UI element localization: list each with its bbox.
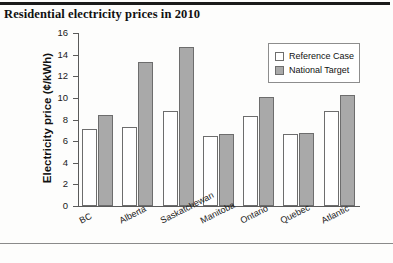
chart-legend: Reference Case National Target [268, 43, 360, 83]
bar-group [118, 33, 158, 206]
bar-group [78, 33, 118, 206]
x-category-label: BC [78, 211, 94, 226]
bar-reference-case [163, 111, 178, 206]
y-tick-label: 0 [42, 201, 68, 211]
bar-national-target [138, 62, 153, 206]
legend-item-reference-case: Reference Case [275, 49, 354, 63]
bar-group [159, 33, 199, 206]
bar-group [199, 33, 239, 206]
y-tick-label: 4 [42, 158, 68, 168]
bar-reference-case [283, 134, 298, 206]
y-tick-label: 14 [42, 50, 68, 60]
y-tick-label: 16 [42, 28, 68, 38]
y-tick-label: 12 [42, 71, 68, 81]
legend-swatch-icon-reference-case [275, 52, 284, 61]
bar-chart: Electricity price (¢/kWh) 0246810121416 … [0, 0, 393, 263]
legend-label-national-target: National Target [289, 65, 349, 75]
y-tick-label: 8 [42, 115, 68, 125]
bar-reference-case [82, 129, 97, 206]
bar-national-target [299, 133, 314, 206]
legend-label-reference-case: Reference Case [289, 51, 354, 61]
bar-national-target [219, 134, 234, 206]
bar-national-target [179, 47, 194, 206]
bar-national-target [340, 95, 355, 206]
y-tick-label: 10 [42, 93, 68, 103]
figure-page: Residential electricity prices in 2010 E… [0, 0, 393, 263]
y-tick-mark [73, 206, 78, 207]
legend-item-national-target: National Target [275, 63, 354, 77]
y-tick-label: 6 [42, 136, 68, 146]
bar-reference-case [324, 111, 339, 206]
bar-reference-case [122, 127, 137, 206]
y-tick-label: 2 [42, 179, 68, 189]
bottom-rule [0, 243, 393, 244]
bar-national-target [259, 97, 274, 206]
legend-swatch-icon-national-target [275, 66, 284, 75]
bar-national-target [98, 115, 113, 206]
bar-reference-case [243, 116, 258, 206]
